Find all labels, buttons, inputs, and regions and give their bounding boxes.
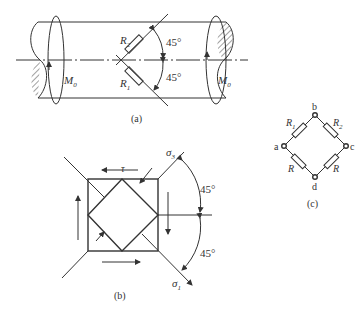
sigma3-line-left <box>64 157 104 197</box>
label-node-d: d <box>312 181 317 192</box>
label-sigma3: σ3 <box>166 146 175 161</box>
node-b <box>313 113 318 118</box>
node-c <box>344 144 349 149</box>
sigma3-arrow <box>140 168 152 183</box>
angle-arc-bottom <box>154 62 163 90</box>
angle-label-a-top: 45° <box>166 36 181 48</box>
caption-c: (c) <box>307 198 318 210</box>
sigma1-line-left <box>62 251 88 278</box>
label-m0-left: M0 <box>63 74 77 89</box>
diagram-canvas: R2 R1 45° 45° M0 M0 (a) τ σ3 σ1 45° 45° … <box>0 0 361 313</box>
label-node-a: a <box>274 141 279 152</box>
sigma1-line-right <box>142 234 192 285</box>
shaft-figure <box>16 14 248 106</box>
node-a <box>282 144 287 149</box>
angle-arc-b-bottom <box>182 218 201 270</box>
angle-label-b-top: 45° <box>200 183 215 195</box>
label-bridge-r4: R <box>332 163 339 174</box>
angle-label-a-bottom: 45° <box>166 71 181 83</box>
label-r1: R1 <box>119 77 130 92</box>
label-bridge-r3: R <box>287 163 294 174</box>
label-node-b: b <box>312 101 317 112</box>
node-d <box>313 175 318 180</box>
angle-label-b-bottom: 45° <box>200 247 215 259</box>
label-tau: τ <box>121 163 125 174</box>
sigma-arrow-lower <box>96 232 104 241</box>
caption-b: (b) <box>114 290 126 302</box>
label-bridge-r1: R1 <box>285 117 296 131</box>
label-node-c: c <box>350 141 355 152</box>
label-r2: R2 <box>119 34 131 49</box>
label-sigma1: σ1 <box>172 277 181 292</box>
label-bridge-r2: R2 <box>332 117 343 131</box>
angle-arc-b-top <box>182 160 201 212</box>
angle-arc-top <box>154 30 163 58</box>
stress-element <box>62 152 212 285</box>
strain-gauge-r1 <box>125 67 143 85</box>
caption-a: (a) <box>131 113 142 125</box>
